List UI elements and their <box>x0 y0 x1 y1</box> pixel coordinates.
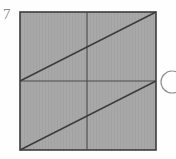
circled-marker-icon <box>161 71 176 93</box>
figure-container: 7 <box>0 0 176 159</box>
divided-square-diagram <box>0 0 176 159</box>
